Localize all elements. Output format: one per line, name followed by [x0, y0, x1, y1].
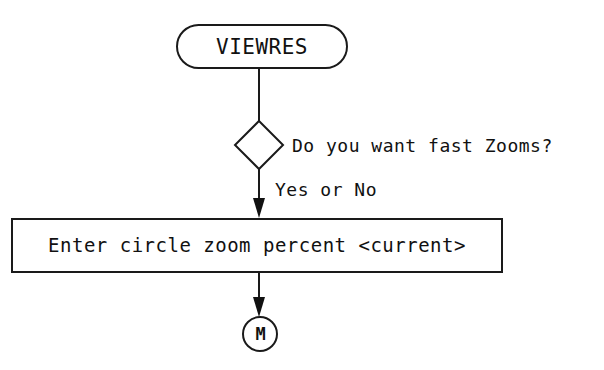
process-label: Enter circle zoom percent <current> — [48, 234, 466, 256]
flowchart-svg: VIEWRES Do you want fast Zooms? Yes or N… — [0, 0, 604, 370]
connector-label: M — [255, 324, 265, 344]
node-connector[interactable]: M — [243, 317, 277, 351]
node-process[interactable]: Enter circle zoom percent <current> — [12, 219, 502, 272]
terminator-label: VIEWRES — [216, 35, 308, 59]
node-terminator[interactable]: VIEWRES — [177, 25, 347, 68]
edge-decision-label: Yes or No — [275, 179, 377, 200]
node-decision[interactable] — [235, 121, 283, 169]
flowchart-canvas: VIEWRES Do you want fast Zooms? Yes or N… — [0, 0, 604, 370]
decision-question-text: Do you want fast Zooms? — [292, 135, 553, 156]
arrowhead-down-connector-icon — [253, 297, 265, 317]
arrowhead-down-icon — [253, 198, 265, 218]
decision-shape — [235, 121, 283, 169]
